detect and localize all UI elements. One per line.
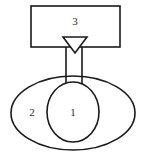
inner-circle-label: 1 [70, 106, 76, 118]
top-rectangle-label: 3 [72, 15, 78, 27]
schematic-diagram: 1 2 3 [0, 0, 147, 158]
outer-ellipse-label: 2 [29, 106, 35, 118]
diagram-canvas: 1 2 3 [0, 0, 147, 158]
